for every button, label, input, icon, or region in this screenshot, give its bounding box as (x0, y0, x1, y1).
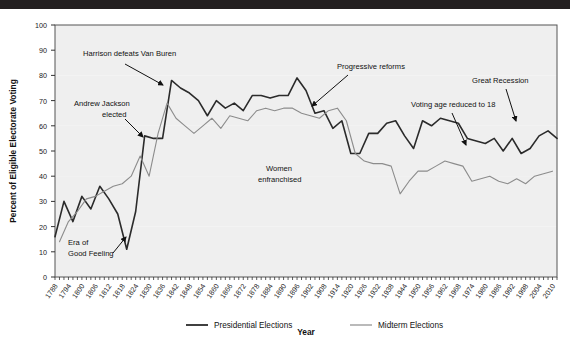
annotation-label: Women (266, 164, 292, 173)
x-tick-label: 1848 (178, 282, 195, 300)
x-tick-label: 1902 (299, 282, 316, 300)
y-tick-label: 60 (39, 122, 47, 131)
annotation-label: Great Recession (472, 76, 529, 85)
top-dark-bar (0, 0, 570, 9)
x-tick-label: 1980 (473, 282, 490, 300)
x-tick-label: 1986 (487, 282, 504, 300)
x-tick-label: 1860 (204, 282, 221, 300)
legend-label: Presidential Elections (214, 321, 292, 330)
x-tick-label: 2010 (541, 282, 558, 300)
x-tick-label: 1998 (514, 282, 531, 300)
annotation-label: enfranchised (258, 175, 301, 184)
annotation-label: Era of (68, 238, 89, 247)
x-tick-label: 1872 (231, 282, 248, 300)
x-tick-label: 1920 (339, 282, 356, 300)
annotation-label: elected (102, 110, 127, 119)
x-tick-label: 1890 (272, 282, 289, 300)
x-tick-label: 1932 (366, 282, 383, 300)
y-axis-title: Percent of Eligible Electorate Voting (8, 79, 18, 223)
x-tick-label: 1950 (406, 282, 423, 300)
x-tick-label: 1818 (110, 282, 127, 300)
legend-label: Midterm Elections (378, 321, 443, 330)
x-tick-label: 2004 (527, 282, 544, 300)
x-tick-label: 1908 (312, 282, 329, 300)
x-tick-label: 1938 (379, 282, 396, 300)
y-tick-label: 50 (39, 147, 47, 156)
annotation-label: Voting age reduced to 18 (411, 100, 495, 109)
y-tick-label: 30 (39, 197, 47, 206)
legend-item: Midterm Elections (350, 321, 443, 330)
x-tick-label: 1836 (151, 282, 168, 300)
x-tick-label: 1944 (393, 282, 410, 300)
x-tick-label: 1914 (325, 282, 342, 300)
x-tick-label: 1926 (352, 282, 369, 300)
legend-item: Presidential Elections (186, 321, 292, 330)
band (55, 176, 557, 226)
x-tick-label: 1866 (218, 282, 235, 300)
x-axis-title: Year (297, 327, 315, 337)
chart-canvas: 0102030405060708090100 17881794180018061… (0, 9, 570, 351)
horizontal-bands (55, 25, 557, 277)
x-tick-label: 1878 (245, 282, 262, 300)
y-tick-label: 10 (39, 248, 47, 257)
x-tick-label: 1992 (500, 282, 517, 300)
y-tick-label: 100 (35, 21, 47, 30)
y-tick-label: 40 (39, 172, 47, 181)
y-tick-label: 20 (39, 223, 47, 232)
x-tick-label: 1854 (191, 282, 208, 300)
annotation-label: Andrew Jackson (74, 99, 130, 108)
x-tick-label: 1974 (460, 282, 477, 300)
x-tick-label: 1800 (70, 282, 87, 300)
x-tick-label: 1956 (420, 282, 437, 300)
x-tick-label: 1788 (43, 282, 60, 300)
x-axis-tick-labels: 1788179418001806181218181824183018361842… (43, 282, 557, 300)
y-tick-label: 80 (39, 71, 47, 80)
x-tick-label: 1968 (446, 282, 463, 300)
annotation-label: Good Feeling (68, 249, 114, 258)
x-tick-label: 1794 (57, 282, 74, 300)
x-tick-label: 1830 (137, 282, 154, 300)
x-tick-label: 1884 (258, 282, 275, 300)
y-tick-label: 0 (43, 273, 47, 282)
x-tick-label: 1812 (97, 282, 114, 300)
y-tick-label: 70 (39, 97, 47, 106)
y-axis-ticks (51, 25, 55, 277)
x-tick-label: 1806 (83, 282, 100, 300)
x-tick-label: 1824 (124, 282, 141, 300)
x-tick-label: 1962 (433, 282, 450, 300)
y-axis-tick-labels: 0102030405060708090100 (35, 21, 47, 282)
band (55, 126, 557, 176)
y-tick-label: 90 (39, 46, 47, 55)
annotation-label: Progressive reforms (337, 62, 405, 71)
turnout-line-chart: 0102030405060708090100 17881794180018061… (0, 9, 570, 351)
annotation-label: Harrison defeats Van Buren (83, 49, 176, 58)
x-tick-label: 1842 (164, 282, 181, 300)
x-tick-label: 1896 (285, 282, 302, 300)
